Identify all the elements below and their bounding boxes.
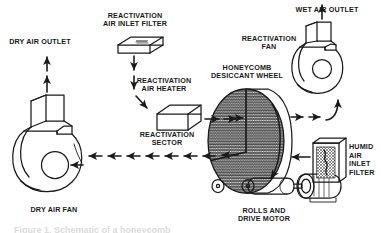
figure-caption-partial: Figure 1. Schematic of a honeycomb xyxy=(14,225,171,233)
reactivation-air-flow-arrows xyxy=(291,100,338,120)
process-air-flow-arrows xyxy=(71,156,215,165)
dry-air-fan-icon xyxy=(13,95,82,192)
label-honeycomb-desiccant-wheel-line2: DESICCANT WHEEL xyxy=(192,72,302,80)
label-reactivation-sector-line2: SECTOR xyxy=(125,139,209,147)
label-dry-air-fan: DRY AIR FAN xyxy=(19,206,89,215)
reactivation-air-inlet-filter-icon xyxy=(118,37,163,53)
reactivation-air-heater-icon xyxy=(157,105,201,130)
label-wet-air-outlet: WET AIR OUTLET xyxy=(283,6,371,15)
humid-air-inlet-filter-icon xyxy=(313,138,346,182)
label-reactivation-air-inlet-filter-line2: AIR INLET FILTER xyxy=(76,20,194,28)
figure-canvas: DRY AIR OUTLET REACTIVATION AIR INLET FI… xyxy=(0,0,381,233)
label-honeycomb-desiccant-wheel: HONEYCOMB DESICCANT WHEEL xyxy=(192,64,302,81)
label-reactivation-air-heater-line2: AIR HEATER xyxy=(119,85,209,93)
label-reactivation-fan-line2: FAN xyxy=(238,43,300,51)
schematic-drawing xyxy=(0,0,381,233)
label-reactivation-fan: REACTIVATION FAN xyxy=(238,35,300,52)
label-rolls-and-drive-motor: ROLLS AND DRIVE MOTOR xyxy=(222,207,306,224)
label-rolls-and-drive-motor-line2: DRIVE MOTOR xyxy=(222,215,306,223)
label-reactivation-sector: REACTIVATION SECTOR xyxy=(125,131,209,148)
label-dry-air-outlet: DRY AIR OUTLET xyxy=(2,38,78,47)
reactivation-fan-icon xyxy=(292,22,343,93)
label-reactivation-air-inlet-filter: REACTIVATION AIR INLET FILTER xyxy=(76,12,194,29)
label-humid-air-inlet-filter-line4: FILTER xyxy=(349,169,379,178)
label-humid-air-inlet-filter: HUMID AIR INLET FILTER xyxy=(349,143,379,177)
